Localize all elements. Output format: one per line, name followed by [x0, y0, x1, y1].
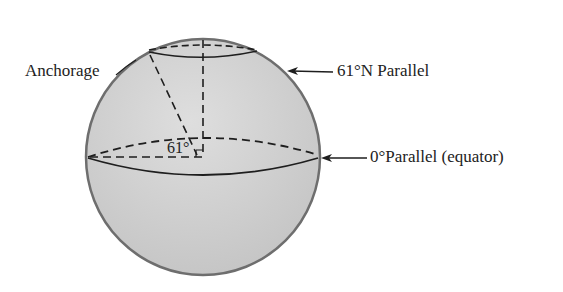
equator-label: 0°Parallel (equator) [370, 147, 504, 167]
arrow-61-line [291, 71, 333, 72]
anchorage-label: Anchorage [25, 61, 100, 81]
parallel-61-label: 61°N Parallel [337, 61, 429, 81]
globe-diagram [0, 0, 563, 292]
angle-label: 61° [167, 139, 189, 157]
